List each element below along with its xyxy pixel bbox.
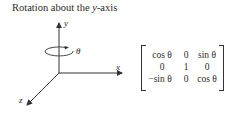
matrix-cell: 0	[184, 74, 189, 84]
matrix-cell: cos θ	[197, 74, 217, 84]
z-axis-label: z	[19, 96, 23, 105]
matrix-right-bracket	[219, 45, 224, 91]
theta-label: θ	[76, 47, 80, 56]
matrix-cell: −sin θ	[148, 74, 171, 84]
matrix-cell: 1	[184, 62, 189, 72]
z-axis	[27, 73, 59, 105]
matrix-cell: 0	[184, 50, 189, 60]
y-axis-label: y	[64, 19, 68, 28]
rotation-matrix: cos θ 0 sin θ 0 1 0 −sin θ 0 cos θ	[141, 45, 224, 90]
matrix-cell: cos θ	[152, 50, 172, 60]
x-axis-label: x	[116, 63, 120, 72]
matrix-cell: 0	[205, 62, 210, 72]
matrix-cell: 0	[160, 62, 165, 72]
matrix-left-bracket	[141, 45, 146, 91]
matrix-cell: sin θ	[198, 50, 216, 60]
